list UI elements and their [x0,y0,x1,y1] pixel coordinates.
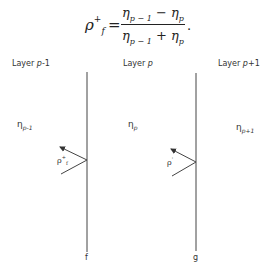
incident-ray-g [172,162,196,176]
layer-diagram [0,0,269,275]
incident-ray-f [61,160,87,174]
reflected-arrow-f [60,147,87,160]
reflected-arrow-g [171,149,196,162]
